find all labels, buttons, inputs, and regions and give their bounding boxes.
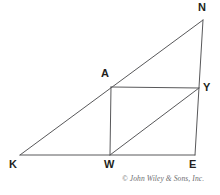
vertex-label-k: K xyxy=(9,159,17,170)
segment-wy xyxy=(110,88,199,155)
vertex-label-y: Y xyxy=(203,82,210,93)
segment-ay xyxy=(111,87,199,88)
geometry-figure: N A Y K W E © John Wiley & Sons, Inc. xyxy=(0,0,220,195)
segment-aw xyxy=(110,87,111,155)
copyright-credit: © John Wiley & Sons, Inc. xyxy=(122,174,204,183)
vertex-label-w: W xyxy=(104,159,114,170)
vertex-label-n: N xyxy=(198,2,206,13)
vertex-label-a: A xyxy=(101,68,109,79)
vertex-label-e: E xyxy=(189,159,196,170)
